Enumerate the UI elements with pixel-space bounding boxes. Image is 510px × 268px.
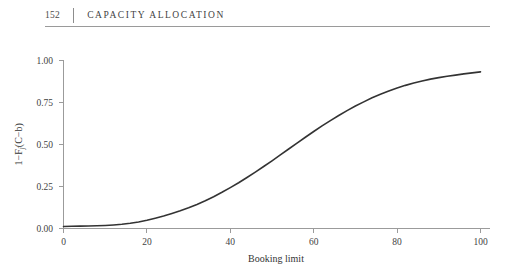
y-tick-label: 0.00 bbox=[36, 224, 53, 234]
figure-container: 0 20 40 60 80 100 0.00 0.25 0.50 0.75 1.… bbox=[0, 34, 510, 268]
x-axis-title: Booking limit bbox=[248, 253, 304, 264]
x-tick-label: 0 bbox=[61, 237, 66, 247]
y-tick-label: 1.00 bbox=[36, 56, 53, 66]
y-axis-title: 1−Fj(C−b) bbox=[13, 123, 26, 165]
y-axis-ticks bbox=[59, 60, 64, 228]
chapter-title: CAPACITY ALLOCATION bbox=[87, 11, 225, 21]
x-tick-label: 60 bbox=[309, 237, 319, 247]
y-axis-title-tail: (C−b) bbox=[13, 123, 25, 147]
running-head-inner: 152 CAPACITY ALLOCATION bbox=[45, 8, 225, 23]
x-axis-ticks bbox=[64, 229, 481, 234]
page-running-head: 152 CAPACITY ALLOCATION bbox=[0, 0, 510, 34]
x-tick-labels: 0 20 40 60 80 100 bbox=[61, 237, 488, 247]
data-series-line bbox=[64, 72, 481, 227]
y-tick-label: 0.25 bbox=[36, 182, 53, 192]
y-tick-label: 0.75 bbox=[36, 98, 53, 108]
running-head-divider bbox=[73, 8, 74, 23]
page-number: 152 bbox=[45, 11, 60, 21]
y-tick-labels: 0.00 0.25 0.50 0.75 1.00 bbox=[36, 56, 53, 234]
x-tick-label: 40 bbox=[226, 237, 236, 247]
line-chart: 0 20 40 60 80 100 0.00 0.25 0.50 0.75 1.… bbox=[0, 34, 510, 268]
x-tick-label: 80 bbox=[392, 237, 402, 247]
x-tick-label: 20 bbox=[142, 237, 152, 247]
y-tick-label: 0.50 bbox=[36, 140, 53, 150]
y-axis-title-lead: 1−F bbox=[13, 149, 24, 166]
x-tick-label: 100 bbox=[473, 237, 488, 247]
header-horizontal-rule bbox=[45, 26, 490, 27]
